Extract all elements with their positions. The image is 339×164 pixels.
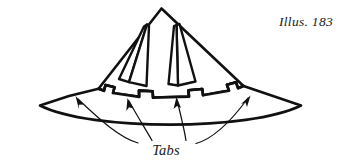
figure-page: Tabs Illus. 183 [0,0,339,164]
tabs-callout-label: Tabs [152,142,180,158]
illustration-figure: Tabs Illus. 183 [0,0,339,164]
cone-sector-group [99,9,244,98]
illustration-caption: Illus. 183 [278,14,333,29]
